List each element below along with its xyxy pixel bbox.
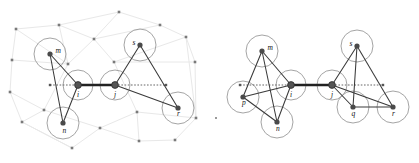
node-label-p: p <box>241 98 246 107</box>
mesh-edge <box>59 25 68 64</box>
mesh-node <box>9 91 12 94</box>
dotted-endpoint-1 <box>382 84 384 86</box>
mesh-edge <box>160 25 186 37</box>
node-label-i: i <box>290 90 292 99</box>
edge-s-r <box>357 46 393 107</box>
mesh-node <box>113 61 116 64</box>
mesh-edge <box>59 12 119 25</box>
mesh-edge <box>10 92 22 122</box>
edge-n-i <box>63 85 78 123</box>
mesh-node <box>185 36 188 39</box>
node-label-n: n <box>63 126 67 135</box>
node-s[interactable] <box>137 42 142 47</box>
right-panel: mpnijsqr <box>215 0 419 163</box>
mesh-edge <box>12 60 68 64</box>
node-m[interactable] <box>259 48 264 53</box>
node-j[interactable] <box>112 82 119 89</box>
edge-m-n <box>262 51 277 122</box>
dotted-startpoint-0 <box>49 84 51 86</box>
node-label-j: j <box>113 90 116 99</box>
mesh-edge <box>10 92 44 110</box>
mesh-edge <box>186 37 196 118</box>
node-label-r: r <box>177 109 180 118</box>
mesh-node <box>11 59 14 62</box>
background-mesh <box>9 11 198 150</box>
mesh-node <box>118 11 121 14</box>
mesh-edge <box>22 110 44 122</box>
node-s[interactable] <box>354 43 359 48</box>
edge-p-n <box>243 97 277 122</box>
node-m[interactable] <box>47 51 52 56</box>
mesh-node <box>159 24 162 27</box>
mesh-edge <box>119 12 160 25</box>
mesh-node <box>174 139 177 142</box>
node-label-m: m <box>56 46 62 55</box>
mesh-edge <box>137 112 196 118</box>
mesh-edge <box>100 112 137 128</box>
node-label-r: r <box>392 109 395 118</box>
mesh-node <box>93 38 96 41</box>
edge-p-i <box>243 85 291 97</box>
node-j[interactable] <box>329 82 336 89</box>
node-label-q: q <box>352 109 356 118</box>
edge-s-r <box>140 45 178 108</box>
mesh-node <box>195 117 198 120</box>
node-i[interactable] <box>288 82 295 89</box>
stray-dot-left-margin <box>215 117 217 119</box>
mesh-edge <box>16 25 59 29</box>
edge-s-q <box>353 46 357 107</box>
mesh-edge <box>100 128 139 141</box>
edge-n-i <box>277 85 291 122</box>
node-label-n: n <box>276 124 280 133</box>
mesh-node <box>194 61 197 64</box>
mesh-edge <box>94 39 114 62</box>
mesh-edge <box>44 110 100 128</box>
node-label-m: m <box>268 43 274 52</box>
mesh-node <box>138 140 141 143</box>
mesh-edge <box>59 25 94 39</box>
node-label-j: j <box>330 90 333 99</box>
mesh-node <box>21 121 24 124</box>
mesh-node <box>99 127 102 130</box>
edge-j-s <box>115 45 140 85</box>
mesh-edge <box>175 118 196 140</box>
mesh-edge <box>12 29 16 60</box>
mesh-edge <box>10 60 12 92</box>
mesh-edge <box>72 128 100 148</box>
node-label-s: s <box>350 39 353 48</box>
mesh-node <box>43 109 46 112</box>
mesh-edge <box>68 39 94 64</box>
mesh-edge <box>137 112 139 141</box>
mesh-node <box>58 24 61 27</box>
mesh-edge <box>139 140 175 141</box>
dotted-startpoint-0 <box>239 84 241 86</box>
mesh-edge <box>94 25 160 39</box>
edge-m-p <box>243 51 262 97</box>
graph-nodes: mnijsr <box>47 38 180 135</box>
node-label-s: s <box>133 38 136 47</box>
mesh-node <box>67 63 70 66</box>
left-panel: mnijsr <box>0 0 215 163</box>
figure-root: mnijsr mpnijsqr <box>0 0 419 163</box>
mesh-node <box>71 147 74 150</box>
node-i[interactable] <box>75 82 82 89</box>
edge-j-s <box>332 46 357 85</box>
mesh-node <box>15 28 18 31</box>
mesh-node <box>136 111 139 114</box>
node-label-i: i <box>77 90 79 99</box>
